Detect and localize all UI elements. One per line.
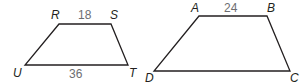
vertex-label-u: U (13, 66, 22, 80)
side-length-rs: 18 (78, 8, 92, 22)
diagram-canvas: R S T U 18 36 A B C D 24 (0, 0, 308, 83)
vertex-label-t: T (129, 66, 138, 80)
trapezoid-abcd (154, 16, 290, 71)
similar-trapezoids-diagram: R S T U 18 36 A B C D 24 (0, 0, 308, 83)
vertex-label-b: B (267, 1, 275, 15)
side-length-ab: 24 (224, 1, 238, 15)
vertex-label-r: R (51, 8, 60, 22)
vertex-label-s: S (110, 8, 118, 22)
trapezoid-rstu (25, 24, 128, 65)
vertex-label-a: A (190, 1, 199, 15)
vertex-label-c: C (290, 71, 299, 83)
vertex-label-d: D (145, 71, 154, 83)
side-length-ut: 36 (69, 67, 83, 81)
